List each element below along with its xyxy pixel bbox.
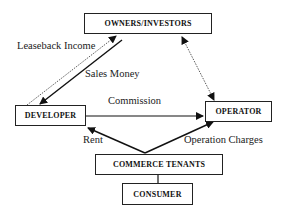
sales-money-label: Sales Money bbox=[85, 68, 140, 79]
consumer-node: CONSUMER bbox=[122, 183, 193, 205]
commerce-tenants-node: COMMERCE TENANTS bbox=[95, 154, 223, 175]
leaseback-income-label: Leaseback Income bbox=[17, 40, 95, 51]
flow-diagram: OWNERS/INVESTORS DEVELOPER OPERATOR COMM… bbox=[0, 0, 285, 216]
owners-investors-node: OWNERS/INVESTORS bbox=[84, 13, 212, 34]
operation-charges-label: Operation Charges bbox=[184, 134, 263, 145]
developer-node: DEVELOPER bbox=[15, 105, 86, 126]
operator-node: OPERATOR bbox=[205, 101, 272, 122]
rent-label: Rent bbox=[83, 134, 103, 145]
owners-operator-arrow bbox=[182, 37, 214, 100]
commission-label: Commission bbox=[108, 95, 161, 106]
